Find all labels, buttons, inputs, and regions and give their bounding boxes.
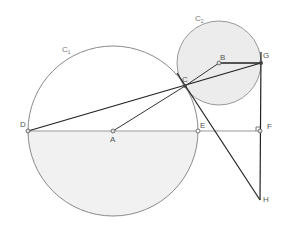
label-a: A	[110, 135, 116, 144]
label-c1: C1	[62, 45, 71, 55]
point-d	[26, 129, 30, 133]
label-c2: C2	[195, 14, 204, 24]
segment-gh	[260, 52, 261, 200]
point-c	[183, 84, 187, 88]
segment-ac	[113, 86, 185, 131]
label-f: F	[267, 122, 272, 131]
label-g: G	[263, 51, 269, 60]
label-b: B	[220, 53, 225, 62]
geometry-diagram: C1 C2 A B C D E F G H	[0, 0, 286, 231]
label-c: C	[182, 75, 188, 84]
label-h: H	[263, 195, 269, 204]
point-a	[111, 129, 115, 133]
label-d: D	[20, 120, 26, 129]
point-f	[258, 129, 262, 133]
label-e: E	[200, 121, 205, 130]
point-g	[259, 61, 263, 65]
